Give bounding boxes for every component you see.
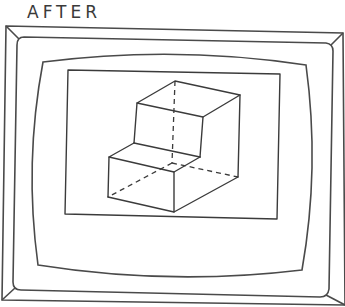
block-edge-right	[238, 95, 240, 177]
block-edge-upper-front	[200, 117, 203, 157]
hidden-edge-left	[108, 163, 172, 197]
hidden-edge-right	[172, 163, 238, 177]
monitor-drawing	[0, 0, 345, 307]
bevel-corner-br	[326, 295, 345, 305]
block-edge-upper-left	[134, 103, 137, 143]
block-edge-lower-left	[108, 157, 109, 197]
block-top-face	[137, 81, 240, 117]
bevel-corner-bl	[2, 288, 15, 300]
block-step-back-edge	[134, 143, 200, 157]
monitor-bezel	[13, 37, 333, 297]
crt-screen	[32, 54, 312, 277]
bevel-corner-tr	[331, 33, 343, 45]
bevel-corner-tl	[6, 26, 19, 39]
block-bottom-edges	[108, 177, 238, 212]
stepped-block	[108, 81, 240, 212]
monitor-outer-frame	[2, 26, 345, 305]
